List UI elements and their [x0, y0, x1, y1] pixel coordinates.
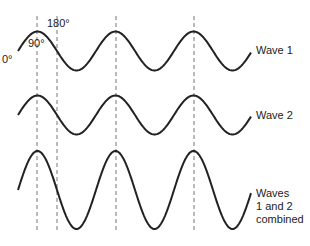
combined-wave-label: Waves 1 and 2 combined [256, 187, 304, 226]
wave-2-curve [18, 96, 251, 135]
angle-label-90: 90° [28, 37, 45, 50]
angle-label-180: 180° [47, 17, 70, 30]
combined-label-line-2: 1 and 2 [256, 200, 304, 213]
combined-label-line-1: Waves [256, 187, 304, 200]
wave-1-label: Wave 1 [256, 44, 293, 57]
wave-1-curve [18, 32, 251, 71]
combined-wave-curve [18, 151, 251, 229]
combined-label-line-3: combined [256, 213, 304, 226]
wave-2-label: Wave 2 [256, 109, 293, 122]
angle-label-0: 0° [2, 53, 13, 66]
